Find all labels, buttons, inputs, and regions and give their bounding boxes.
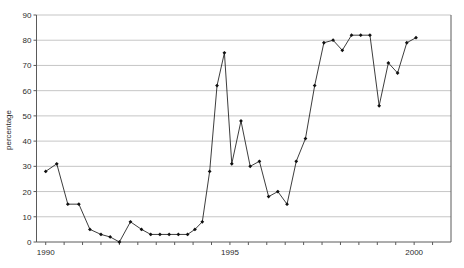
chart-container: 0102030405060708090 199019952000 percent…	[0, 0, 464, 268]
data-point-marker	[304, 137, 308, 141]
data-point-marker	[223, 51, 227, 55]
data-point-marker	[405, 41, 409, 45]
data-point-marker	[294, 159, 298, 163]
y-tick-label: 80	[23, 36, 32, 45]
y-tick-label: 30	[23, 162, 32, 171]
y-tick-label: 50	[23, 112, 32, 121]
data-point-marker	[149, 233, 153, 237]
y-tick-label: 60	[23, 87, 32, 96]
data-point-marker	[108, 235, 112, 239]
data-point-marker	[66, 202, 70, 206]
data-point-marker	[350, 33, 354, 37]
data-point-marker	[267, 195, 271, 199]
data-point-marker	[176, 233, 180, 237]
data-point-marker	[99, 233, 103, 237]
data-point-marker	[230, 162, 234, 166]
data-series-line	[46, 35, 416, 242]
data-point-marker	[414, 36, 418, 40]
data-point-marker	[88, 227, 92, 231]
data-point-marker	[167, 233, 171, 237]
data-point-marker	[158, 233, 162, 237]
y-axis-title: percentage	[4, 109, 13, 150]
y-tick-label: 20	[23, 188, 32, 197]
line-chart-plot: 0102030405060708090 199019952000 percent…	[0, 0, 464, 268]
data-series-markers	[44, 33, 418, 244]
x-axis-tick-labels: 199019952000	[37, 248, 424, 257]
data-point-marker	[377, 104, 381, 108]
x-tick-label: 2000	[405, 248, 423, 257]
data-point-marker	[248, 164, 252, 168]
y-tick-label: 40	[23, 137, 32, 146]
data-point-marker	[77, 202, 81, 206]
data-point-marker	[368, 33, 372, 37]
y-tick-label: 10	[23, 213, 32, 222]
data-point-marker	[208, 169, 212, 173]
y-tick-label: 90	[23, 11, 32, 20]
data-point-marker	[258, 159, 262, 163]
data-point-marker	[313, 84, 317, 88]
data-point-marker	[118, 240, 122, 244]
data-point-marker	[359, 33, 363, 37]
y-axis-tick-labels: 0102030405060708090	[23, 11, 32, 247]
y-tick-label: 0	[27, 238, 32, 247]
x-tick-label: 1990	[37, 248, 55, 257]
x-tick-label: 1995	[221, 248, 239, 257]
data-point-marker	[215, 84, 219, 88]
data-point-marker	[322, 41, 326, 45]
data-point-marker	[239, 119, 243, 123]
y-tick-label: 70	[23, 61, 32, 70]
